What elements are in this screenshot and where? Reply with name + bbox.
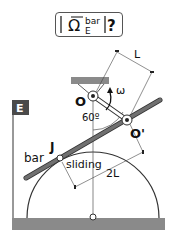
label-omega: ω <box>116 84 125 97</box>
label-sliding: sliding <box>66 158 102 171</box>
question-mark: ? <box>107 17 116 35</box>
label-angle: 60º <box>82 112 100 123</box>
omega-symbol: Ω <box>68 16 80 35</box>
contact-point-J <box>57 155 63 161</box>
semicircle-center-point <box>90 214 96 220</box>
label-bar: bar <box>24 151 44 165</box>
title-expression: Ω bar E ? <box>61 16 116 36</box>
subscript-e: E <box>85 26 91 36</box>
superscript-bar: bar <box>85 16 100 26</box>
label-O: O <box>75 94 86 109</box>
pivot-O-prime-center <box>125 118 129 122</box>
pivot-O-center <box>91 94 95 98</box>
label-J: J <box>49 140 54 154</box>
dim-2L-label: 2L <box>106 167 120 180</box>
label-O-prime: O' <box>130 126 145 141</box>
frame-label: E <box>16 102 24 115</box>
omega-arrowhead-icon <box>107 87 113 93</box>
ground <box>12 218 165 230</box>
mechanism-diagram: Ω bar E ? E L 2L <box>0 0 174 236</box>
dim-L-label: L <box>134 48 141 61</box>
